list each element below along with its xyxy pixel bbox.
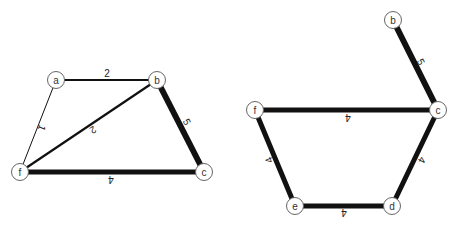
edge-weight-label: 2	[104, 68, 110, 79]
node-f: f	[247, 102, 264, 119]
node-a: a	[48, 72, 65, 89]
node-b: b	[149, 72, 166, 89]
node-label: f	[254, 105, 257, 116]
node-label: d	[389, 201, 395, 212]
node-label: c	[202, 167, 207, 178]
edge-weight-label: 4	[108, 174, 114, 185]
left-graph: 21254abfc	[12, 68, 213, 185]
edge-weight-label: 4	[263, 155, 275, 165]
node-f: f	[12, 164, 29, 181]
right-graph: 54444bcfed	[247, 12, 447, 218]
node-label: e	[292, 201, 298, 212]
node-label: b	[390, 15, 396, 26]
node-label: f	[19, 167, 22, 178]
node-label: a	[53, 75, 59, 86]
edge-weight-label: 4	[341, 207, 347, 218]
node-d: d	[384, 198, 401, 215]
node-label: b	[154, 75, 160, 86]
graph-diagram: 21254abfc 54444bcfed	[0, 0, 462, 228]
node-b: b	[385, 12, 402, 29]
edge-weight-label: 1	[36, 123, 48, 133]
node-c: c	[430, 102, 447, 119]
edge-weight-label: 4	[345, 112, 351, 123]
node-c: c	[196, 164, 213, 181]
edge-c-d	[392, 110, 438, 206]
edge-b-c	[157, 80, 204, 172]
edge-f-e	[255, 110, 295, 206]
edge-b-c	[393, 20, 438, 110]
node-e: e	[287, 198, 304, 215]
node-label: c	[436, 105, 441, 116]
